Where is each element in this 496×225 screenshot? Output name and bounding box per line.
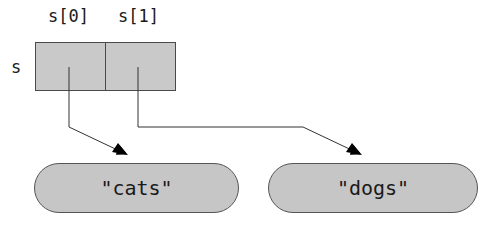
arrowhead-icon [346, 143, 362, 155]
arrow-s0-to-cats [69, 67, 126, 154]
pointer-arrows [0, 0, 496, 225]
arrowhead-icon [112, 143, 128, 155]
arrow-s1-to-dogs [138, 67, 360, 154]
